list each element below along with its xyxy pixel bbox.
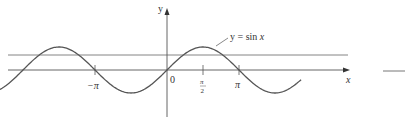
neg-pi-label: −π	[87, 80, 100, 91]
curve-equation-prefix: y = sin	[230, 31, 260, 42]
y-axis-arrow-icon	[165, 8, 170, 15]
annotation-leader-line	[216, 38, 228, 46]
pi-label: π	[235, 79, 241, 90]
curve-equation-var: x	[259, 31, 265, 42]
y-axis-label: y	[158, 3, 163, 14]
curve-equation-label: y = sin x	[230, 31, 265, 42]
sine-graph: y x 0 −π π π 2 y = sin x	[0, 0, 405, 117]
x-axis-arrow-icon	[343, 68, 350, 73]
half-pi-numerator: π	[200, 78, 204, 86]
half-pi-denominator: 2	[201, 87, 205, 95]
origin-label: 0	[170, 74, 175, 85]
x-axis-label: x	[345, 74, 351, 85]
